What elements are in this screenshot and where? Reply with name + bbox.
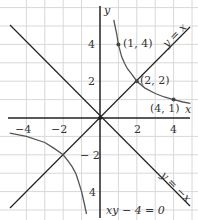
label-point-2-2: (2, 2) [140,74,170,87]
label-y-equals-neg-x: y = −x [157,168,194,205]
graph-figure: y x −4 −2 2 4 4 2 − 2 4 (1, 4) (2, 2) (4… [0,0,198,220]
y-tick-4: 4 [88,38,95,51]
x-tick-2: 2 [134,123,141,136]
equation-label: xy − 4 = 0 [106,204,165,217]
point-4-1 [172,98,176,102]
origin-point [98,116,102,120]
plot-canvas: y x −4 −2 2 4 4 2 − 2 4 (1, 4) (2, 2) (4… [0,0,198,220]
point-1-4 [116,42,120,46]
x-tick-4: 4 [170,123,177,136]
x-axis-label: x [185,103,192,116]
y-tick-2: 2 [88,75,95,88]
label-y-equals-x: y = x [159,20,190,51]
label-point-4-1: (4, 1) [150,102,180,115]
y-axis-label: y [103,4,111,17]
x-tick-neg4: −4 [15,123,31,136]
y-tick-neg4: 4 [89,186,96,199]
point-2-2 [135,79,139,83]
y-tick-neg2: − 2 [80,149,100,162]
x-tick-neg2: −2 [51,123,67,136]
label-point-1-4: (1, 4) [123,37,153,50]
